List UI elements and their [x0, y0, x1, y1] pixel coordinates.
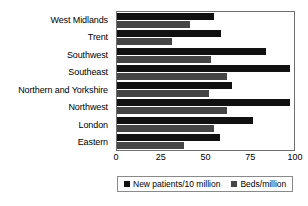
category-label: Trent [0, 29, 112, 47]
bar-new-patients [117, 134, 220, 141]
bar-new-patients [117, 13, 214, 20]
axis-tick-label: 25 [156, 152, 166, 162]
legend-label: New patients/10 million [133, 179, 220, 189]
category-label: London [0, 116, 112, 134]
bar-beds [117, 56, 211, 63]
bar-new-patients [117, 82, 232, 89]
category-axis: West Midlands Trent Southwest Southeast … [0, 11, 112, 151]
bar-new-patients [117, 117, 253, 124]
bar-group [117, 29, 294, 46]
bar-new-patients [117, 99, 290, 106]
bar-beds [117, 125, 214, 132]
category-label: Northwest [0, 99, 112, 117]
plot-area [116, 11, 295, 151]
legend-item-beds: Beds/million [231, 179, 286, 189]
legend-item-new-patients: New patients/10 million [124, 179, 220, 189]
chart-legend: New patients/10 million Beds/million [117, 176, 293, 192]
category-label: Northern and Yorkshire [0, 81, 112, 99]
bar-beds [117, 107, 227, 114]
bar-beds [117, 38, 172, 45]
category-label: Southeast [0, 64, 112, 82]
category-label: Southwest [0, 46, 112, 64]
axis-tick-label: 50 [200, 152, 210, 162]
bar-new-patients [117, 48, 266, 55]
category-label: Eastern [0, 134, 112, 152]
axis-tick-label: 75 [245, 152, 255, 162]
bar-beds [117, 142, 184, 149]
bar-beds [117, 73, 227, 80]
value-axis: 0 25 50 75 100 [116, 152, 295, 166]
bar-chart: West Midlands Trent Southwest Southeast … [0, 0, 308, 206]
bar-group [117, 116, 294, 133]
legend-swatch-icon [231, 181, 237, 187]
bar-new-patients [117, 30, 221, 37]
legend-swatch-icon [124, 181, 130, 187]
bar-group [117, 81, 294, 98]
axis-tick-label: 100 [287, 152, 302, 162]
legend-label: Beds/million [240, 179, 286, 189]
bar-group [117, 98, 294, 115]
axis-tick-label: 0 [113, 152, 118, 162]
bars-container [117, 12, 294, 150]
bar-group [117, 133, 294, 150]
bar-new-patients [117, 65, 290, 72]
bar-group [117, 64, 294, 81]
bar-group [117, 12, 294, 29]
bar-beds [117, 21, 190, 28]
category-label: West Midlands [0, 11, 112, 29]
bar-group [117, 47, 294, 64]
bar-beds [117, 90, 209, 97]
